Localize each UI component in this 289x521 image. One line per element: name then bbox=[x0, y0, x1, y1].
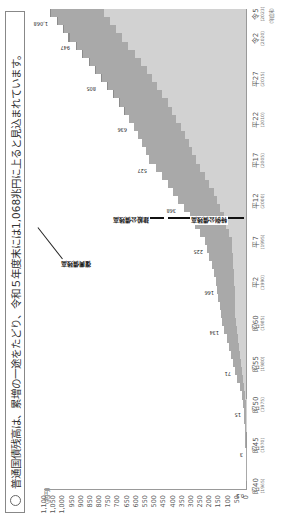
y-tick-label: 150 bbox=[214, 495, 222, 519]
bar-segment-construction-bond bbox=[245, 432, 246, 440]
y-tick-label: 950 bbox=[68, 495, 76, 519]
bar-segment-special-bond bbox=[220, 204, 246, 212]
headline-box: 普通国債残高は、累増の一途をたどり、令和５年度末には1,068兆円に上ると見込ま… bbox=[5, 11, 25, 513]
bar-year bbox=[184, 204, 246, 212]
bar-segment-special-bond bbox=[243, 375, 246, 383]
bar-year bbox=[235, 367, 246, 375]
bar-segment-special-bond bbox=[234, 277, 246, 285]
bar-segment-special-bond bbox=[157, 82, 246, 90]
x-tick-label: 平7 bbox=[250, 227, 260, 257]
x-tick-year: (1970) bbox=[260, 430, 265, 460]
bar-segment-special-bond bbox=[200, 163, 246, 171]
bar-segment-reconstruction-bond bbox=[113, 90, 114, 98]
total-value-label: 527 bbox=[138, 168, 148, 174]
total-value-label: 0.2 bbox=[236, 493, 244, 499]
bar-segment-special-bond bbox=[128, 41, 246, 49]
bar-segment-construction-bond bbox=[134, 123, 181, 131]
total-value-label: 636 bbox=[118, 127, 128, 133]
bar-segment-special-bond bbox=[176, 114, 246, 122]
bar-year bbox=[63, 25, 246, 33]
y-tick-label: 600 bbox=[132, 495, 140, 519]
bar-segment-construction-bond bbox=[244, 416, 246, 424]
x-tick-label: 昭40 bbox=[250, 471, 260, 501]
x-tick-label: 平12 bbox=[250, 186, 260, 216]
bar-segment-special-bond bbox=[242, 367, 246, 375]
bar-segment-special-bond bbox=[233, 253, 246, 261]
bar-segment-special-bond bbox=[205, 171, 246, 179]
bar-segment-special-bond bbox=[241, 359, 246, 367]
bar-segment-construction-bond bbox=[119, 98, 167, 106]
construction-bond-label: 建設公債残高 bbox=[112, 216, 150, 225]
y-tick-label: 100 bbox=[224, 495, 232, 519]
y-tick-label: 400 bbox=[169, 495, 177, 519]
bar-year bbox=[216, 277, 246, 285]
bar-segment-construction-bond bbox=[200, 228, 229, 236]
bar-year bbox=[209, 253, 246, 261]
bar-segment-construction-bond bbox=[231, 350, 240, 358]
bar-year bbox=[244, 416, 246, 424]
bar-year bbox=[142, 139, 246, 147]
bar-segment-construction-bond bbox=[102, 74, 152, 82]
bar-segment-special-bond bbox=[245, 391, 246, 399]
x-tick-year: (2005) bbox=[260, 146, 265, 176]
total-value-label: 15 bbox=[235, 412, 241, 418]
x-tick-label: 平2 bbox=[250, 268, 260, 298]
bar-segment-construction-bond bbox=[168, 180, 210, 188]
bar-year bbox=[243, 399, 246, 407]
bar-segment-construction-bond bbox=[129, 114, 176, 122]
bar-year bbox=[76, 41, 247, 49]
bar-segment-construction-bond bbox=[243, 399, 245, 407]
bar-segment-special-bond bbox=[240, 350, 246, 358]
y-tick-label: 800 bbox=[95, 495, 103, 519]
bar-segment-construction-bond bbox=[146, 147, 192, 155]
bar-segment-reconstruction-bond bbox=[76, 41, 77, 49]
y-tick-label: 1,100 bbox=[40, 495, 48, 519]
bar-year bbox=[217, 285, 246, 293]
plot-area: 0.2315711341662253685276368059471,068 bbox=[44, 9, 247, 490]
y-tick-label: 700 bbox=[113, 495, 121, 519]
bar-year bbox=[134, 123, 246, 131]
bar-segment-construction-bond bbox=[240, 383, 244, 391]
x-tick-label: 昭50 bbox=[250, 390, 260, 420]
bar-segment-special-bond bbox=[233, 261, 246, 269]
bar-segment-special-bond bbox=[196, 155, 247, 163]
bar-year bbox=[245, 432, 246, 440]
bar-segment-construction-bond bbox=[224, 326, 236, 334]
bar-segment-special-bond bbox=[214, 188, 246, 196]
bar-segment-construction-bond bbox=[57, 17, 110, 25]
bar-segment-reconstruction-bond bbox=[101, 74, 102, 82]
bar-year bbox=[89, 58, 246, 66]
bar-year bbox=[138, 131, 246, 139]
bar-segment-special-bond bbox=[235, 285, 246, 293]
x-tick-label: 平17 bbox=[250, 146, 260, 176]
bar-segment-construction-bond bbox=[217, 285, 235, 293]
bar-year bbox=[95, 66, 246, 74]
bar-segment-construction-bond bbox=[125, 106, 173, 114]
x-tick-year: (2010) bbox=[260, 105, 265, 135]
bar-segment-construction-bond bbox=[114, 90, 163, 98]
bar-segment-construction-bond bbox=[207, 245, 232, 253]
bar-segment-special-bond bbox=[232, 237, 246, 245]
x-tick-year: (1965) bbox=[260, 471, 265, 501]
bar-segment-reconstruction-bond bbox=[57, 17, 58, 25]
y-tick-label: 900 bbox=[77, 495, 85, 519]
bar-segment-construction-bond bbox=[138, 131, 185, 139]
bar-year bbox=[212, 261, 246, 269]
bar-year bbox=[233, 359, 246, 367]
bar-segment-special-bond bbox=[235, 302, 246, 310]
bar-segment-construction-bond bbox=[229, 342, 239, 350]
bar-segment-construction-bond bbox=[212, 261, 234, 269]
total-value-label: 3 bbox=[240, 452, 243, 458]
bar-segment-special-bond bbox=[189, 139, 246, 147]
bar-segment-construction-bond bbox=[70, 33, 122, 41]
bar-segment-special-bond bbox=[104, 9, 247, 17]
x-tick-label: 平22 bbox=[250, 105, 260, 135]
bar-segment-construction-bond bbox=[216, 277, 235, 285]
bar-segment-construction-bond bbox=[235, 367, 242, 375]
bar-year bbox=[50, 9, 246, 17]
bar-segment-construction-bond bbox=[108, 82, 157, 90]
bar-segment-special-bond bbox=[116, 25, 246, 33]
bar-segment-construction-bond bbox=[64, 25, 116, 33]
bar-segment-reconstruction-bond bbox=[107, 82, 108, 90]
bar-segment-construction-bond bbox=[178, 196, 217, 204]
